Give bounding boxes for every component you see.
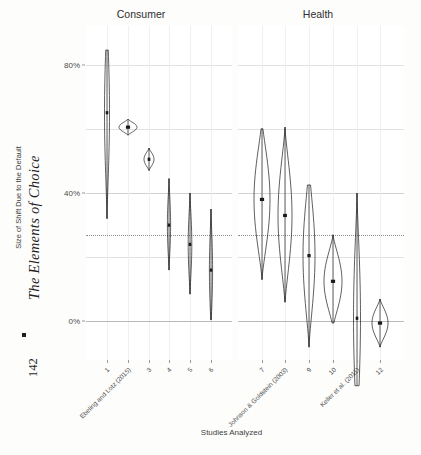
x-tick-mark	[211, 360, 212, 363]
x-tick-label-9: 9	[305, 366, 313, 374]
x-axis-title: Studies Analyzed	[42, 428, 421, 437]
x-tick-label-3: 3	[145, 366, 153, 374]
x-tick-label-8: Johnson & Goldstein (2003)	[227, 366, 289, 428]
x-tick-label-12: 12	[374, 366, 384, 376]
x-tick-mark	[380, 360, 381, 363]
x-tick-mark	[107, 360, 108, 363]
x-tick-label-6: 6	[207, 366, 215, 374]
y-tick-label-80: 80%	[64, 60, 80, 69]
x-tick-mark	[357, 360, 358, 363]
x-tick-mark	[128, 360, 129, 363]
x-tick-label-5: 5	[186, 366, 194, 374]
x-tick-mark	[149, 360, 150, 363]
y-tick-label-40: 40%	[64, 189, 80, 198]
facet-label-health: Health	[232, 6, 404, 22]
x-tick-mark	[262, 360, 263, 363]
plot-panel-health	[238, 26, 404, 360]
x-tick-label-7: 7	[258, 366, 266, 374]
violin-12	[366, 26, 394, 360]
facet-label-consumer: Consumer	[60, 6, 222, 22]
y-tick-mark	[82, 64, 85, 65]
violin-6	[197, 26, 225, 360]
y-tick-mark	[82, 193, 85, 194]
x-tick-mark	[285, 360, 286, 363]
x-tick-label-4: 4	[165, 366, 173, 374]
page-number: 142	[26, 358, 41, 377]
y-tick-mark	[82, 321, 85, 322]
x-tick-mark	[333, 360, 334, 363]
x-tick-label-11: Keller et al. (2011)	[318, 366, 360, 408]
x-tick-mark	[169, 360, 170, 363]
x-tick-mark	[190, 360, 191, 363]
x-tick-label-10: 10	[327, 366, 337, 376]
figure-container: Consumer Health Size of Shift Due to the…	[42, 0, 421, 455]
y-tick-label-0: 0%	[68, 317, 80, 326]
book-title: The Elements of Choice	[26, 155, 43, 300]
y-axis-title: Size of Shift Due to the Default	[14, 118, 23, 278]
square-bullet-icon	[22, 333, 26, 337]
x-tick-mark	[309, 360, 310, 363]
x-tick-label-2: Ebeling and Lotz (2015)	[78, 366, 132, 420]
plot-panel-consumer	[86, 26, 232, 360]
y-axis: Size of Shift Due to the Default 0%40%80…	[42, 26, 86, 360]
x-tick-label-1: 1	[103, 366, 111, 374]
